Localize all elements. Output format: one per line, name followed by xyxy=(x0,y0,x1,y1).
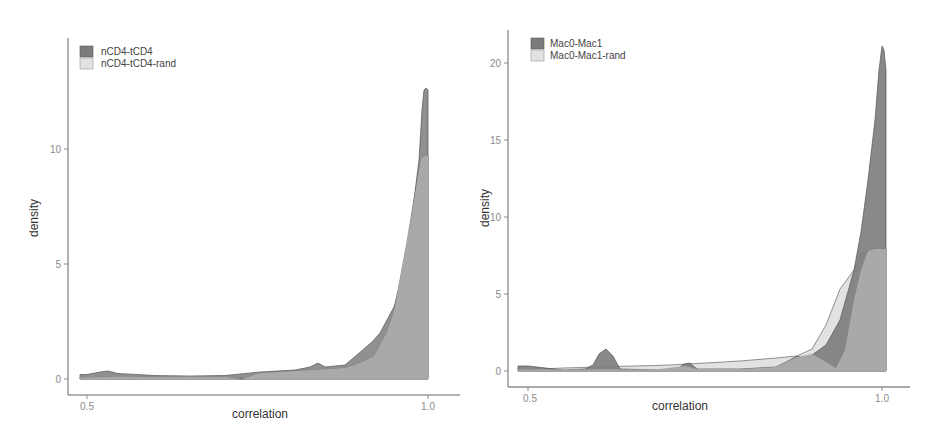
left-xtick-1.0: 1.0 xyxy=(421,401,435,412)
left-xtick-0.5: 0.5 xyxy=(80,401,94,412)
left-series-main-area xyxy=(80,88,428,379)
right-ytick-0: 0 xyxy=(495,366,501,377)
right-ytick-20: 20 xyxy=(490,58,502,69)
left-y-axis-label: density xyxy=(27,199,41,237)
legend-label-ncd4-tcd4: nCD4-tCD4 xyxy=(101,46,153,57)
legend-label-mac0-mac1-rand: Mac0-Mac1-rand xyxy=(550,50,626,61)
legend-swatch-dark xyxy=(80,46,93,57)
legend-swatch-light xyxy=(531,50,544,61)
legend-swatch-light xyxy=(80,58,93,69)
right-legend: Mac0-Mac1 Mac0-Mac1-rand xyxy=(531,38,626,61)
right-y-axis-label: density xyxy=(478,189,492,227)
right-chart: 0 5 10 15 20 0.5 1.0 correlation density… xyxy=(478,30,910,413)
legend-label-mac0-mac1: Mac0-Mac1 xyxy=(550,38,603,49)
left-ytick-10: 10 xyxy=(50,144,62,155)
legend-swatch-dark xyxy=(531,38,544,49)
figure: 0 5 10 0.5 1.0 correlation density nCD4-… xyxy=(0,0,944,436)
left-chart: 0 5 10 0.5 1.0 correlation density nCD4-… xyxy=(27,38,460,421)
legend-label-ncd4-tcd4-rand: nCD4-tCD4-rand xyxy=(101,58,176,69)
right-xtick-1.0: 1.0 xyxy=(875,393,889,404)
left-ytick-0: 0 xyxy=(55,374,61,385)
left-x-axis-label: correlation xyxy=(232,407,288,421)
right-ytick-5: 5 xyxy=(495,289,501,300)
right-x-axis-label: correlation xyxy=(652,399,708,413)
left-ytick-5: 5 xyxy=(55,259,61,270)
right-xtick-0.5: 0.5 xyxy=(523,393,537,404)
left-legend: nCD4-tCD4 nCD4-tCD4-rand xyxy=(80,46,176,69)
right-ytick-15: 15 xyxy=(490,135,502,146)
